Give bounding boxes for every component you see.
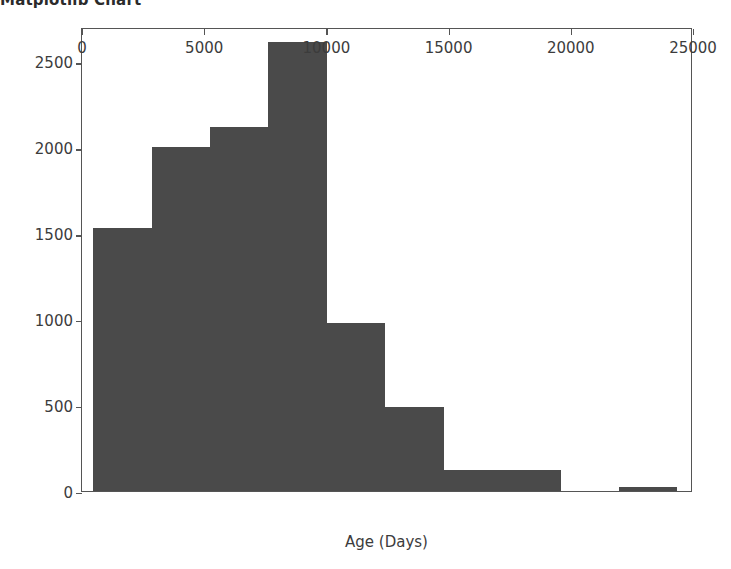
y-tick-mark <box>76 407 82 408</box>
x-tick-mark <box>693 29 694 35</box>
x-tick-mark <box>326 29 327 35</box>
plot-axes: 05001000150020002500 0500010000150002000… <box>81 28 692 492</box>
page-title: Matplotlib Chart <box>0 0 240 9</box>
y-tick-mark <box>76 493 82 494</box>
y-tick-label: 2000 <box>35 140 73 158</box>
y-tick-label: 1500 <box>35 226 73 244</box>
y-tick-label: 1000 <box>35 312 73 330</box>
x-tick-label: 20000 <box>547 39 595 57</box>
histogram-bar <box>385 407 443 491</box>
x-axis-label: Age (Days) <box>81 533 692 551</box>
histogram-bar <box>619 487 677 491</box>
y-tick-label: 0 <box>63 484 73 502</box>
y-tick-mark <box>76 321 82 322</box>
histogram-bar <box>210 127 268 491</box>
histogram-bar <box>327 323 385 491</box>
histogram-bar <box>268 42 326 491</box>
x-tick-mark <box>82 29 83 35</box>
histogram-bar <box>444 470 502 491</box>
x-tick-label: 25000 <box>669 39 717 57</box>
x-tick-label: 10000 <box>303 39 351 57</box>
x-tick-mark <box>449 29 450 35</box>
y-tick-label: 500 <box>44 398 73 416</box>
matplotlib-figure: Matplotlib Chart 05001000150020002500 05… <box>0 0 731 569</box>
histogram-bar <box>152 147 210 491</box>
y-tick-mark <box>76 63 82 64</box>
histogram-plot-area <box>82 29 691 491</box>
x-tick-label: 5000 <box>185 39 223 57</box>
y-tick-mark <box>76 235 82 236</box>
x-tick-mark <box>204 29 205 35</box>
x-tick-mark <box>571 29 572 35</box>
histogram-bar <box>93 228 151 491</box>
y-tick-mark <box>76 149 82 150</box>
y-tick-label: 2500 <box>35 54 73 72</box>
x-tick-label: 0 <box>77 39 87 57</box>
histogram-bar <box>502 470 560 491</box>
x-tick-label: 15000 <box>425 39 473 57</box>
